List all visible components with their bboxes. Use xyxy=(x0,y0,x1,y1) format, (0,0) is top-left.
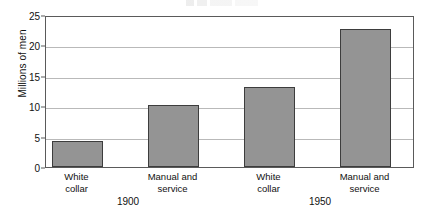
x-group-label-group-1900: 1900 xyxy=(88,196,168,207)
x-category-label-manual-and-service-1900: Manual and service xyxy=(133,171,212,194)
x-category-label-manual-and-service-1950: Manual and service xyxy=(325,171,404,194)
cropped-title-remnant xyxy=(186,0,266,6)
x-group-label-group-1950: 1950 xyxy=(280,196,360,207)
x-category-label-white-collar-1950: White collar xyxy=(229,171,308,194)
bar-white-collar-1900 xyxy=(52,141,103,167)
bar-manual-and-service-1950 xyxy=(340,29,391,167)
x-category-label-white-collar-1900: White collar xyxy=(37,171,116,194)
y-axis-title: Millions of men xyxy=(17,0,28,134)
y-tick-mark-20 xyxy=(41,46,45,47)
bar-white-collar-1950 xyxy=(244,87,295,167)
y-tick-mark-10 xyxy=(41,107,45,108)
y-tick-label-15: 15 xyxy=(29,71,40,82)
y-tick-mark-0 xyxy=(41,168,45,169)
y-tick-label-10: 10 xyxy=(29,102,40,113)
y-tick-label-5: 5 xyxy=(34,132,40,143)
bar-manual-and-service-1900 xyxy=(148,105,199,167)
y-tick-mark-15 xyxy=(41,76,45,77)
plot-area xyxy=(45,16,414,168)
y-tick-mark-25 xyxy=(41,16,45,17)
bar-chart-figure: Millions of men 0510152025White collarMa… xyxy=(0,0,429,215)
y-tick-label-25: 25 xyxy=(29,11,40,22)
y-tick-label-20: 20 xyxy=(29,41,40,52)
y-tick-mark-5 xyxy=(41,137,45,138)
